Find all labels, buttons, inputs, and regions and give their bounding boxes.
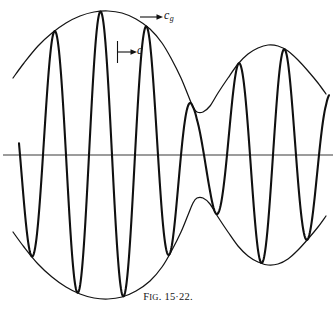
cg-arrow-icon [140, 14, 163, 20]
group-velocity-label: cg [164, 9, 173, 21]
group-velocity-symbol: c [164, 8, 169, 22]
carrier-group [19, 12, 329, 297]
c-arrow-icon [118, 41, 138, 63]
caption-number: . 15·22. [159, 291, 193, 302]
figure-caption: FIG. 15·22. [0, 291, 336, 303]
group-velocity-subscript: g [170, 14, 174, 23]
envelope-lower-curve [13, 197, 326, 299]
wave-packet-diagram [0, 0, 336, 313]
phase-velocity-label: c [137, 44, 142, 56]
caption-smallcaps: IG [149, 292, 159, 302]
figure-container: cg c FIG. 15·22. [0, 0, 336, 313]
carrier-wave-curve [19, 12, 329, 297]
